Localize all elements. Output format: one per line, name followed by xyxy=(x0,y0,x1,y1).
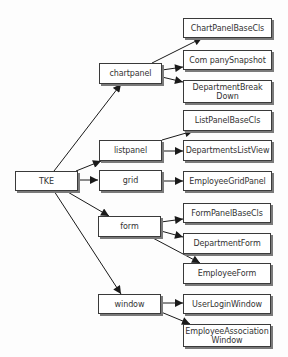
node-chart-panel-base-cls: ChartPanelBaseCls xyxy=(183,18,272,38)
edge-tke-window xyxy=(54,191,121,294)
edge-listpanel-listpanelbasecls xyxy=(162,131,193,140)
node-department-breakdown: DepartmentBreak Down xyxy=(183,80,272,103)
namespace-diagram: TKE chartpanel listpanel grid form windo… xyxy=(0,0,288,357)
node-employee-form: EmployeeForm xyxy=(183,263,271,284)
node-list-panel-base-cls: ListPanelBaseCls xyxy=(183,110,272,131)
node-form-panel-base-cls: FormPanelBaseCls xyxy=(183,203,271,223)
node-company-snapshot: Com panySnapshot xyxy=(183,50,272,70)
node-listpanel: listpanel xyxy=(99,140,162,161)
node-window: window xyxy=(98,294,161,314)
node-chartpanel: chartpanel xyxy=(99,63,162,84)
node-employee-grid-panel: EmployeeGridPanel xyxy=(183,171,272,191)
edge-tke-form xyxy=(66,191,109,216)
node-department-form: DepartmentForm xyxy=(183,233,271,254)
node-user-login-window: UserLoginWindow xyxy=(183,294,271,314)
edge-chartpanel-companysnapshot xyxy=(162,67,183,70)
node-departments-list-view: DepartmentsListView xyxy=(183,140,272,161)
node-employee-association-window: EmployeeAssociation Window xyxy=(183,324,271,347)
node-form: form xyxy=(98,216,161,237)
node-grid: grid xyxy=(99,170,162,191)
node-tke: TKE xyxy=(15,171,78,191)
edge-chartpanel-departmentbreakdown xyxy=(162,77,183,82)
edge-tke-listpanel xyxy=(76,161,101,171)
edge-form-departmentform xyxy=(161,231,183,237)
edge-form-formpanelbasecls xyxy=(161,219,183,222)
